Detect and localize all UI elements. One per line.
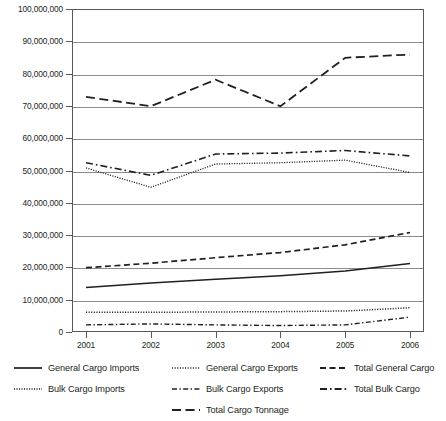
x-tick-label: 2004 xyxy=(271,340,289,350)
y-tick-label: 0 xyxy=(58,327,63,337)
y-tick-label: 50,000,000 xyxy=(23,166,63,176)
series-line-total-general-cargo xyxy=(86,233,410,268)
line-chart: 010,000,00020,000,00030,000,00040,000,00… xyxy=(0,0,446,421)
y-tick-label: 70,000,000 xyxy=(23,101,63,111)
y-tick-label: 90,000,000 xyxy=(23,36,63,46)
legend-item-bulk-cargo-exports[interactable]: Bulk Cargo Exports xyxy=(172,379,283,398)
legend-item-total-cargo-tonnage[interactable]: Total Cargo Tonnage xyxy=(172,400,289,419)
y-tick-label: 40,000,000 xyxy=(23,198,63,208)
legend-label: General Cargo Imports xyxy=(48,363,139,373)
series-line-general-cargo-imports xyxy=(86,264,410,288)
x-tick-label: 2001 xyxy=(77,340,95,350)
legend-label: Bulk Cargo Imports xyxy=(48,384,125,394)
legend-label: Total Cargo Tonnage xyxy=(206,405,289,415)
legend-label: Total Bulk Cargo xyxy=(354,384,420,394)
x-tick-mark xyxy=(345,332,346,338)
x-tick-mark xyxy=(216,332,217,338)
legend-row: Total Cargo Tonnage xyxy=(0,400,446,419)
legend-label: Total General Cargo xyxy=(354,363,434,373)
x-tick-mark xyxy=(151,332,152,338)
y-tick-label: 30,000,000 xyxy=(23,230,63,240)
legend-swatch-solid-icon xyxy=(14,363,42,373)
legend-row: General Cargo ImportsGeneral Cargo Expor… xyxy=(0,358,446,377)
x-axis: 200120022003200420052006 xyxy=(72,332,424,358)
y-tick-label: 100,000,000 xyxy=(18,4,63,14)
y-tick-label: 20,000,000 xyxy=(23,262,63,272)
x-tick-mark xyxy=(86,332,87,338)
legend-swatch-fine-dotted-icon xyxy=(14,384,42,394)
legend-swatch-dashed-icon xyxy=(320,363,348,373)
y-tick-label: 10,000,000 xyxy=(23,295,63,305)
x-tick-label: 2005 xyxy=(336,340,354,350)
legend-item-general-cargo-imports[interactable]: General Cargo Imports xyxy=(14,358,139,377)
legend-swatch-dash-dot-short-icon xyxy=(172,384,200,394)
series-line-general-cargo-exports xyxy=(86,308,410,313)
legend-item-bulk-cargo-imports[interactable]: Bulk Cargo Imports xyxy=(14,379,125,398)
x-tick-label: 2006 xyxy=(401,340,419,350)
y-axis: 010,000,00020,000,00030,000,00040,000,00… xyxy=(0,0,72,341)
x-tick-mark xyxy=(410,332,411,338)
series-layer xyxy=(72,9,424,332)
legend-label: General Cargo Exports xyxy=(206,363,298,373)
legend-swatch-dotted-icon xyxy=(172,363,200,373)
y-tick-label: 60,000,000 xyxy=(23,133,63,143)
x-tick-mark xyxy=(280,332,281,338)
chart-legend: General Cargo ImportsGeneral Cargo Expor… xyxy=(0,358,446,421)
series-line-bulk-cargo-imports xyxy=(86,160,410,187)
legend-item-total-general-cargo[interactable]: Total General Cargo xyxy=(320,358,434,377)
y-tick-label: 80,000,000 xyxy=(23,69,63,79)
legend-swatch-dash-dot-icon xyxy=(320,384,348,394)
series-line-bulk-cargo-exports xyxy=(86,317,410,325)
series-line-total-cargo-tonnage xyxy=(86,55,410,107)
legend-item-total-bulk-cargo[interactable]: Total Bulk Cargo xyxy=(320,379,420,398)
x-tick-label: 2002 xyxy=(142,340,160,350)
legend-swatch-long-dash-icon xyxy=(172,405,200,415)
legend-label: Bulk Cargo Exports xyxy=(206,384,283,394)
x-tick-label: 2003 xyxy=(206,340,224,350)
legend-item-general-cargo-exports[interactable]: General Cargo Exports xyxy=(172,358,298,377)
legend-row: Bulk Cargo ImportsBulk Cargo ExportsTota… xyxy=(0,379,446,398)
